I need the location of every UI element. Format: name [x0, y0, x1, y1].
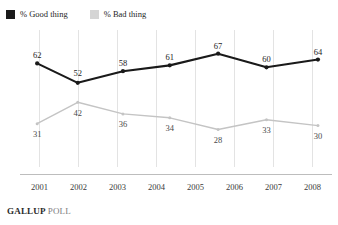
- x-tick-label: 2004: [148, 182, 165, 193]
- chart-legend: % Good thing % Bad thing: [6, 6, 146, 22]
- data-point-good: [264, 65, 268, 69]
- x-tick-label: 2005: [187, 182, 204, 193]
- data-point-bad: [36, 122, 39, 125]
- value-label-good: 58: [119, 58, 128, 68]
- chart-series-layer: [35, 52, 320, 131]
- legend-swatch-icon: [6, 10, 15, 19]
- value-label-bad: 42: [73, 108, 82, 118]
- value-label-good: 62: [33, 50, 42, 60]
- poll-word: POLL: [48, 206, 71, 216]
- value-label-bad: 33: [262, 125, 271, 135]
- data-point-bad: [316, 124, 319, 127]
- value-label-good: 67: [214, 41, 223, 51]
- data-point-good: [316, 57, 320, 61]
- value-label-bad: 28: [214, 135, 223, 145]
- data-point-good: [35, 61, 39, 65]
- gallup-brand: GALLUP: [7, 206, 46, 216]
- value-label-bad: 30: [314, 131, 323, 141]
- x-tick-label: 2007: [265, 182, 282, 193]
- chart-plot-area: 6252586167606431423634283330: [20, 30, 332, 175]
- chart-gridlines: [40, 30, 313, 167]
- value-label-bad: 34: [166, 123, 175, 133]
- value-label-good: 52: [73, 68, 82, 78]
- data-point-bad: [121, 112, 124, 115]
- data-point-bad: [76, 101, 79, 104]
- x-tick-label: 2006: [226, 182, 243, 193]
- legend-item-good: % Good thing: [6, 9, 68, 19]
- data-point-good: [76, 81, 80, 85]
- chart-x-axis: 20012002200320042005200620072008: [20, 182, 332, 196]
- legend-label-good: % Good thing: [20, 9, 68, 19]
- value-label-good: 61: [166, 52, 175, 62]
- x-tick-label: 2008: [304, 182, 321, 193]
- data-point-bad: [265, 118, 268, 121]
- legend-swatch-icon: [90, 10, 99, 19]
- legend-item-bad: % Bad thing: [90, 9, 147, 19]
- data-point-good: [121, 69, 125, 73]
- x-tick-label: 2001: [31, 182, 48, 193]
- x-tick-label: 2003: [109, 182, 126, 193]
- value-label-good: 64: [314, 47, 323, 57]
- value-label-bad: 36: [119, 119, 128, 129]
- value-label-good: 60: [262, 54, 271, 64]
- chart-canvas: [20, 30, 332, 175]
- source-attribution: GALLUPPOLL: [7, 205, 71, 217]
- value-label-bad: 31: [33, 129, 42, 139]
- data-point-good: [216, 52, 220, 56]
- legend-label-bad: % Bad thing: [104, 9, 147, 19]
- x-tick-label: 2002: [70, 182, 87, 193]
- data-point-bad: [217, 128, 220, 131]
- data-point-bad: [168, 116, 171, 119]
- data-point-good: [168, 63, 172, 67]
